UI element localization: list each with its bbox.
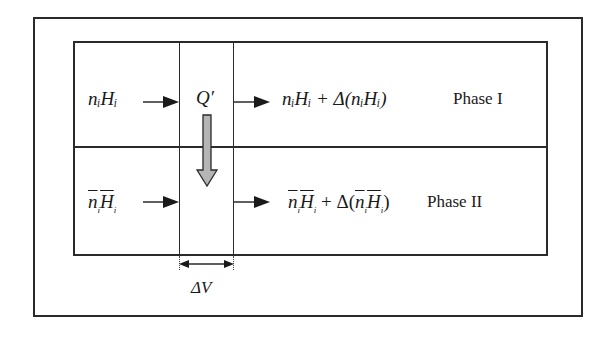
heat-input-label: Q′ — [196, 88, 214, 107]
volume-element-right-boundary — [233, 41, 234, 256]
phase1-inflow-arrow-icon — [143, 96, 179, 108]
phase2-outflow-arrow-icon — [234, 196, 270, 208]
phase-interface-line — [73, 146, 548, 148]
volume-dimension-arrow-icon — [179, 259, 234, 269]
phase1-inflow-label: nᵢHᵢ — [88, 89, 117, 108]
phase1-outflow-arrow-icon — [234, 96, 270, 108]
phase2-inflow-label: niHi — [88, 192, 116, 215]
phase2-outflow-label: niHi + Δ(niHi) — [288, 192, 390, 215]
volume-element-left-boundary — [179, 41, 180, 256]
phase2-inflow-arrow-icon — [143, 196, 179, 208]
phase2-label: Phase II — [427, 193, 482, 210]
heat-transfer-arrow-icon — [196, 114, 218, 188]
volume-element-label: ΔV — [191, 279, 211, 296]
phase1-outflow-label: nᵢHᵢ + Δ(nᵢHᵢ) — [282, 89, 387, 108]
phase1-label: Phase I — [453, 90, 503, 107]
control-volume-box — [73, 41, 548, 256]
